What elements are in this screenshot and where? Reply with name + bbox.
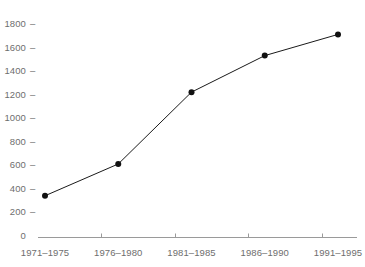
chart-plot-area <box>0 0 365 267</box>
y-axis-tick-mark: – <box>26 184 42 194</box>
x-axis-tick-label: 1981–1985 <box>156 247 228 258</box>
y-axis-tick-mark: – <box>26 66 42 76</box>
y-axis-tick-label: 1200– <box>0 90 42 100</box>
y-axis-tick-value: 0 <box>0 231 26 241</box>
data-point <box>189 89 195 95</box>
data-point <box>335 31 341 37</box>
y-axis-tick-label: 800– <box>0 137 42 147</box>
y-axis-tick-label: 0 <box>0 231 26 241</box>
data-point <box>262 53 268 59</box>
y-axis-tick-mark: – <box>26 160 42 170</box>
y-axis-tick-label: 200– <box>0 207 42 217</box>
x-axis-tick-label: 1976–1980 <box>82 247 154 258</box>
x-axis-ticks <box>102 234 323 238</box>
y-axis-tick-value: 1200 <box>0 90 26 100</box>
y-axis-tick-value: 1400 <box>0 66 26 76</box>
y-axis-tick-mark: – <box>26 113 42 123</box>
y-axis-tick-label: 1800– <box>0 19 42 29</box>
y-axis-tick-value: 1000 <box>0 113 26 123</box>
data-point-markers <box>42 31 341 198</box>
y-axis-tick-mark: – <box>26 19 42 29</box>
y-axis-tick-label: 600– <box>0 160 42 170</box>
y-axis-tick-mark: – <box>26 43 42 53</box>
y-axis-tick-value: 600 <box>0 160 26 170</box>
y-axis-tick-value: 800 <box>0 137 26 147</box>
y-axis-tick-label: 1000– <box>0 113 42 123</box>
data-series-line <box>45 34 338 195</box>
y-axis-tick-value: 1600 <box>0 43 26 53</box>
y-axis-tick-value: 200 <box>0 207 26 217</box>
data-point <box>115 161 121 167</box>
y-axis-tick-label: 1600– <box>0 43 42 53</box>
x-axis-tick-label: 1991–1995 <box>302 247 365 258</box>
line-chart: 0200–400–600–800–1000–1200–1400–1600–180… <box>0 0 365 267</box>
y-axis-tick-mark: – <box>26 207 42 217</box>
y-axis-tick-label: 1400– <box>0 66 42 76</box>
y-axis-tick-mark: – <box>26 137 42 147</box>
y-axis-tick-value: 400 <box>0 184 26 194</box>
data-point <box>42 193 48 199</box>
x-axis-tick-label: 1971–1975 <box>9 247 81 258</box>
y-axis-tick-label: 400– <box>0 184 42 194</box>
x-axis-tick-label: 1986–1990 <box>229 247 301 258</box>
y-axis-tick-mark: – <box>26 90 42 100</box>
y-axis-tick-value: 1800 <box>0 19 26 29</box>
